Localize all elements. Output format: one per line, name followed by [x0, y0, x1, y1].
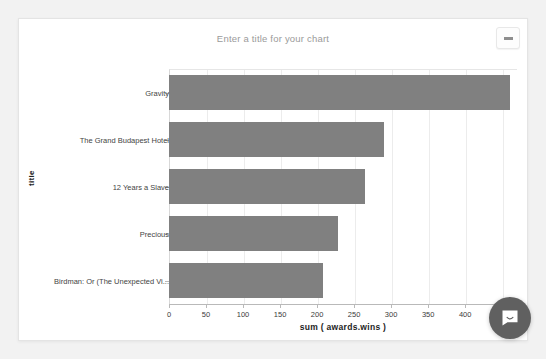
bar[interactable]: [169, 75, 510, 111]
x-axis-title: sum ( awards.wins ): [169, 322, 517, 332]
bar[interactable]: [169, 263, 323, 299]
bar-chart: title sum ( awards.wins ) GravityThe Gra…: [19, 19, 529, 342]
x-tick-label: 400: [459, 310, 472, 319]
x-tick-label: 150: [274, 310, 287, 319]
y-tick-label: 12 Years a Slave: [113, 182, 169, 191]
x-tick-mark: [243, 304, 244, 308]
bar-row: [19, 75, 529, 111]
chat-launcher-button[interactable]: [489, 297, 531, 339]
y-tick-label: Gravity: [145, 88, 169, 97]
y-tick-label: Birdman: Or (The Unexpected Vi...: [54, 276, 169, 285]
y-tick-label: The Grand Budapest Hotel: [80, 135, 169, 144]
chat-bubble-icon: [500, 308, 520, 328]
bar-row: [19, 216, 529, 252]
bar[interactable]: [169, 122, 384, 158]
chart-card: Enter a title for your chart title sum (…: [18, 18, 528, 341]
bar[interactable]: [169, 169, 365, 205]
x-tick-label: 200: [311, 310, 324, 319]
x-tick-mark: [391, 304, 392, 308]
x-tick-label: 50: [202, 310, 210, 319]
x-tick-mark: [317, 304, 318, 308]
x-tick-mark: [428, 304, 429, 308]
x-tick-label: 350: [422, 310, 435, 319]
x-tick-label: 0: [167, 310, 171, 319]
x-tick-label: 100: [237, 310, 250, 319]
bar[interactable]: [169, 216, 338, 252]
x-tick-mark: [465, 304, 466, 308]
x-tick-mark: [169, 304, 170, 308]
y-tick-label: Precious: [140, 229, 169, 238]
x-tick-mark: [280, 304, 281, 308]
x-tick-label: 300: [385, 310, 398, 319]
x-tick-mark: [206, 304, 207, 308]
bar-row: [19, 169, 529, 205]
x-tick-label: 250: [348, 310, 361, 319]
x-tick-mark: [354, 304, 355, 308]
